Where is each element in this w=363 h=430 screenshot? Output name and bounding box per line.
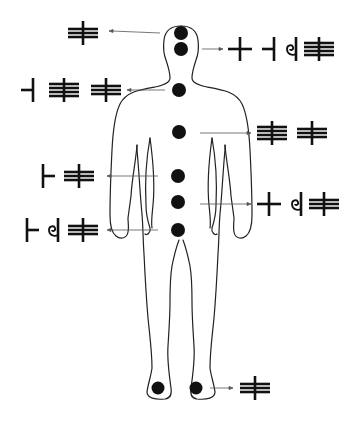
three-lines-glyph-icon — [64, 164, 94, 188]
cross-glyph-icon — [228, 37, 252, 61]
glyph-group-crown — [68, 21, 98, 45]
arrowhead-icon — [229, 387, 233, 390]
glyph-group-throat — [21, 78, 121, 102]
arrowhead-icon — [219, 48, 223, 51]
glyph-group-groin — [27, 218, 98, 242]
dot-solar-plexus — [171, 169, 185, 183]
three-lines-glyph-icon — [240, 376, 270, 400]
glyph-group-feet — [240, 376, 270, 400]
three-lines-glyph-icon — [297, 121, 327, 145]
four-lines-glyph-icon — [49, 78, 79, 102]
three-lines-glyph-icon — [68, 21, 98, 45]
three-lines-glyph-icon — [91, 78, 121, 102]
arrowhead-icon — [247, 203, 251, 206]
dot-right-foot — [190, 382, 203, 395]
dot-left-foot — [152, 382, 165, 395]
arrowhead-icon — [109, 30, 113, 33]
cross-glyph-icon — [257, 192, 281, 216]
glyph-group-navel — [257, 192, 339, 216]
dot-navel — [171, 195, 185, 209]
left-tick-glyph-icon — [21, 78, 33, 102]
three-lines-glyph-icon — [309, 192, 339, 216]
dot-throat — [172, 83, 186, 97]
left-tick-glyph-icon — [262, 37, 274, 61]
four-lines-glyph-icon — [257, 121, 287, 145]
arrowhead-icon — [247, 132, 251, 135]
marker-dots — [152, 26, 203, 395]
body-outline — [110, 26, 252, 399]
spiral-bar-glyph-icon — [49, 218, 58, 242]
glyph-group-chest — [257, 121, 327, 145]
arrowhead-icon — [107, 175, 111, 178]
dot-forehead — [174, 42, 188, 56]
glyph-groups — [21, 21, 339, 400]
dot-chest — [172, 125, 186, 139]
four-lines-glyph-icon — [304, 37, 334, 61]
arrowhead-icon — [107, 229, 111, 232]
spiral-bar-glyph-icon — [287, 37, 296, 61]
glyph-group-solar-plexus — [43, 164, 94, 188]
right-tick-glyph-icon — [27, 218, 39, 242]
dot-groin — [171, 223, 185, 237]
body-diagram — [0, 0, 363, 430]
glyph-group-forehead — [228, 37, 334, 61]
arrow-crown — [112, 31, 160, 33]
arrowhead-icon — [127, 89, 131, 92]
dot-crown — [174, 26, 188, 40]
right-tick-glyph-icon — [43, 164, 55, 188]
spiral-bar-glyph-icon — [292, 192, 301, 216]
three-lines-glyph-icon — [68, 218, 98, 242]
